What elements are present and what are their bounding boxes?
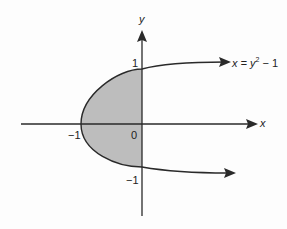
tick-label-y-neg-one: −1 [126,175,139,186]
equation-rhs: − 1 [259,57,278,69]
equation-lhs: x = y [232,57,256,69]
origin-label: 0 [131,130,137,141]
tick-label-y-pos-one: 1 [132,58,138,69]
x-axis-label: x [260,118,266,129]
parabola-diagram: y x 0 −1 1 −1 x = y2 − 1 [0,0,287,229]
diagram-canvas [0,0,287,229]
curve-equation-label: x = y2 − 1 [232,56,278,69]
tick-label-x-neg-one: −1 [68,130,81,141]
shaded-region [81,69,142,167]
y-axis-label: y [139,14,145,25]
